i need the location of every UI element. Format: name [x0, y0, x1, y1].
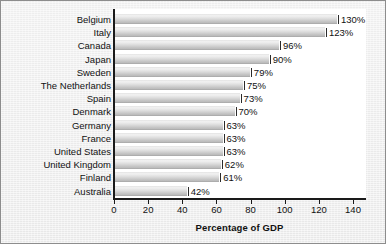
value-tick-mark [270, 55, 271, 64]
value-tick-mark [280, 41, 281, 50]
value-label: 90% [270, 53, 292, 66]
value-label: 63% [224, 119, 246, 132]
x-axis-title: Percentage of GDP [113, 222, 366, 233]
x-axis-tick-label: 140 [338, 204, 368, 215]
category-label: Sweden [77, 66, 111, 79]
category-label: Germany [72, 119, 111, 132]
value-tick-mark [326, 28, 327, 37]
value-label-text: 61% [223, 171, 242, 184]
value-tick-mark [224, 147, 225, 156]
bar [115, 186, 187, 196]
value-tick-mark [251, 68, 252, 77]
chart-figure: Belgium130%Italy123%Canada96%Japan90%Swe… [0, 0, 386, 244]
value-label-text: 130% [341, 13, 365, 26]
value-tick-mark [338, 15, 339, 24]
value-label: 96% [280, 39, 302, 52]
x-axis-tick-label: 120 [304, 204, 334, 215]
bar-row: Japan90% [1, 53, 386, 66]
bar [115, 106, 235, 116]
value-label: 63% [224, 145, 246, 158]
bar [115, 14, 337, 24]
bar-fill [115, 80, 243, 90]
value-tick-mark [224, 134, 225, 143]
value-label-text: 96% [283, 39, 302, 52]
value-label: 61% [220, 171, 242, 184]
bar [115, 93, 240, 103]
x-axis-tick-label: 80 [236, 204, 266, 215]
category-label: Japan [85, 53, 111, 66]
value-tick-mark [244, 81, 245, 90]
bar-fill [115, 146, 223, 156]
bar [115, 80, 243, 90]
bar-row: Italy123% [1, 26, 386, 39]
bar-row: Denmark70% [1, 105, 386, 118]
value-label-text: 79% [254, 66, 273, 79]
bar-row: Canada96% [1, 39, 386, 52]
value-label-text: 73% [244, 92, 263, 105]
value-label: 62% [222, 158, 244, 171]
value-label: 63% [224, 132, 246, 145]
value-label: 73% [241, 92, 263, 105]
bar-fill [115, 54, 269, 64]
category-label: France [81, 132, 111, 145]
bar-fill [115, 93, 240, 103]
value-label-text: 42% [191, 185, 210, 198]
category-label: The Netherlands [41, 79, 111, 92]
bar-fill [115, 159, 221, 169]
bar [115, 146, 223, 156]
x-axis-tick-label: 100 [270, 204, 300, 215]
value-label: 79% [251, 66, 273, 79]
bar [115, 40, 279, 50]
value-label: 123% [326, 26, 353, 39]
bar-row: Sweden79% [1, 66, 386, 79]
value-label-text: 63% [227, 119, 246, 132]
bar-row: Finland61% [1, 171, 386, 184]
bar-fill [115, 67, 250, 77]
bar [115, 67, 250, 77]
bar-row: Germany63% [1, 119, 386, 132]
bar-fill [115, 186, 187, 196]
category-label: Denmark [72, 105, 111, 118]
value-tick-mark [236, 107, 237, 116]
bar [115, 54, 269, 64]
value-label: 42% [188, 185, 210, 198]
bar [115, 27, 325, 37]
value-label: 130% [338, 13, 365, 26]
value-tick-mark [188, 187, 189, 196]
value-label-text: 63% [227, 132, 246, 145]
value-label-text: 75% [247, 79, 266, 92]
bar-fill [115, 14, 337, 24]
category-label: United States [54, 145, 111, 158]
bar-fill [115, 40, 279, 50]
bar-row: Spain73% [1, 92, 386, 105]
bar-row: The Netherlands75% [1, 79, 386, 92]
bar [115, 159, 221, 169]
value-label: 75% [244, 79, 266, 92]
category-label: Canada [78, 39, 111, 52]
x-axis-tick-label: 20 [133, 204, 163, 215]
category-label: Spain [87, 92, 111, 105]
x-axis-tick-label: 60 [201, 204, 231, 215]
bar [115, 120, 223, 130]
value-tick-mark [222, 160, 223, 169]
value-label-text: 123% [329, 26, 353, 39]
bar-fill [115, 120, 223, 130]
x-axis-tick-label: 0 [99, 204, 129, 215]
bar [115, 133, 223, 143]
category-label: United Kingdom [43, 158, 111, 171]
bar [115, 172, 219, 182]
category-label: Italy [94, 26, 111, 39]
bar-fill [115, 27, 325, 37]
bar-fill [115, 106, 235, 116]
y-axis-line [113, 9, 115, 199]
category-label: Australia [74, 185, 111, 198]
value-tick-mark [224, 121, 225, 130]
value-label-text: 70% [239, 105, 258, 118]
bar-row: Belgium130% [1, 13, 386, 26]
bar-fill [115, 133, 223, 143]
bar-row: France63% [1, 132, 386, 145]
value-tick-mark [241, 94, 242, 103]
x-axis-tick-label: 40 [167, 204, 197, 215]
bar-row: United States63% [1, 145, 386, 158]
value-label-text: 63% [227, 145, 246, 158]
